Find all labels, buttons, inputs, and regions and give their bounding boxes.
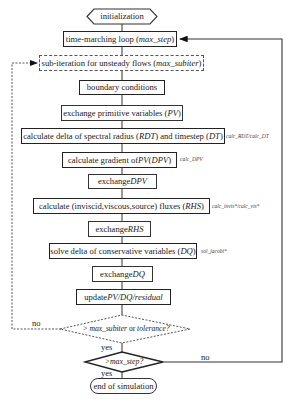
subiter-t1: > max_subiter — [82, 324, 127, 333]
calc-rdt-v2: DT — [209, 132, 220, 141]
exchange-rhs-prefix: exchange — [95, 225, 127, 234]
sub-iter-var: max_subiter — [156, 59, 199, 68]
step-no-label: no — [201, 353, 210, 362]
calc-dpv-v1: PV — [138, 156, 149, 165]
calc-rhs-box: calculate (inviscid,viscous,source) flux… — [33, 198, 210, 214]
calc-dpv-t1: calculate gradient of — [68, 156, 138, 165]
exchange-rhs-var: RHS — [128, 225, 144, 234]
sub-iter-prefix: sub-iteration for unsteady flows ( — [42, 59, 157, 68]
calc-rhs-var: RHS — [185, 202, 201, 211]
exchange-pv-var: PV — [167, 109, 178, 118]
subiter-decision-text: > max_subiter or tolerance? — [72, 325, 180, 333]
exchange-rhs-box: exchange RHS — [88, 221, 151, 237]
exchange-pv-suffix: ) — [178, 109, 181, 118]
boundary-label: boundary conditions — [87, 83, 157, 92]
exchange-dq-box: exchange DQ — [92, 266, 153, 282]
solve-dq-suffix: ) — [193, 247, 196, 256]
end-of-simulation-box: end of simulation — [90, 378, 157, 394]
solve-dq-box: solve delta of conservative variables (D… — [49, 243, 197, 259]
step-yes-label: yes — [101, 369, 112, 378]
subiter-t2: or — [127, 324, 137, 333]
time-loop-var: max_step — [139, 35, 171, 44]
sub-iter-suffix: ) — [199, 59, 202, 68]
calc-rdt-routine: calc_RDT/calc_DT — [226, 134, 269, 140]
calc-dpv-routine: calc_DPV — [180, 157, 203, 163]
exchange-dq-prefix: exchange — [100, 270, 132, 279]
calc-rhs-routine: calc_invis*/calc_vis* — [212, 204, 259, 210]
calc-rdt-box: calculate delta of spectral radius (RDT)… — [21, 128, 225, 144]
step-decision-text: >max_step? — [96, 358, 152, 366]
exchange-pv-prefix: exchange primitive variables ( — [63, 109, 167, 118]
subiter-no-label: no — [32, 319, 41, 328]
calc-rdt-t3: ) — [220, 132, 223, 141]
subiter-t3: tolerance? — [137, 324, 169, 333]
boundary-conditions-box: boundary conditions — [79, 80, 165, 95]
solve-dq-routine: sol_jacobi* — [201, 249, 227, 255]
calc-dpv-v2: DPV — [151, 156, 168, 165]
time-loop-suffix: ) — [171, 35, 174, 44]
exchange-dq-var: DQ — [133, 270, 145, 279]
exchange-dpv-var: DPV — [130, 177, 147, 186]
update-box: update PV/DQ/residual — [76, 289, 171, 305]
update-prefix: update — [84, 293, 107, 302]
time-marching-loop-box: time-marching loop (max_step) — [63, 31, 177, 47]
calc-rdt-v1: RDT — [139, 132, 155, 141]
exchange-pv-box: exchange primitive variables (PV) — [61, 105, 183, 121]
update-var: PV/DQ/residual — [107, 293, 163, 302]
time-loop-prefix: time-marching loop ( — [66, 35, 139, 44]
exchange-dpv-prefix: exchange — [98, 177, 130, 186]
calc-rdt-t1: calculate delta of spectral radius ( — [23, 132, 139, 141]
calc-rhs-suffix: ) — [201, 202, 204, 211]
calc-rdt-t2: ) and timestep ( — [155, 132, 209, 141]
sub-iteration-box: sub-iteration for unsteady flows (max_su… — [39, 55, 204, 71]
solve-dq-var: DQ — [180, 247, 192, 256]
initialization-label: initialization — [94, 12, 150, 21]
subiter-yes-label: yes — [101, 343, 112, 352]
end-label: end of simulation — [93, 382, 153, 391]
calc-rhs-prefix: calculate (inviscid,viscous,source) flux… — [39, 202, 185, 211]
exchange-dpv-box: exchange DPV — [88, 174, 157, 189]
solve-dq-prefix: solve delta of conservative variables ( — [50, 247, 180, 256]
calc-dpv-t3: ) — [168, 156, 171, 165]
calc-dpv-box: calculate gradient of PV (DPV) — [62, 152, 177, 168]
